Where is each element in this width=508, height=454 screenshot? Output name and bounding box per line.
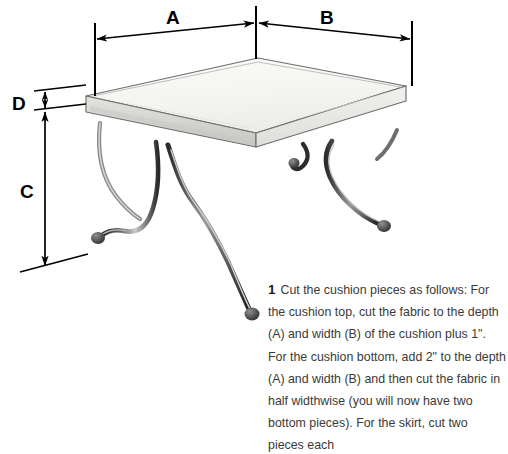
dimension-label-b: B <box>320 8 334 27</box>
leg-right-rear <box>377 130 397 159</box>
dim-arrow-B <box>259 23 410 39</box>
foot-inner-hook <box>289 158 300 168</box>
foot-right-outer <box>377 220 391 232</box>
dimension-label-d: D <box>12 94 26 113</box>
ext-line-d-top <box>34 85 86 91</box>
leg-back-left <box>99 123 140 219</box>
step-body-text: Cut the cushion pieces as follows: For t… <box>268 283 506 452</box>
leg-right-outer <box>326 141 379 224</box>
ext-line-c-bottom <box>20 254 88 272</box>
foot-left <box>91 232 105 244</box>
leg-front-main <box>168 145 249 309</box>
instruction-step-1: 1Cut the cushion pieces as follows: For … <box>268 279 506 454</box>
dimension-label-c: C <box>20 182 34 201</box>
foot-front-main <box>245 308 260 321</box>
bench-cushion <box>86 58 406 147</box>
ext-line-d-bottom <box>34 104 86 110</box>
dimension-label-a: A <box>166 8 180 27</box>
step-number: 1 <box>268 282 275 297</box>
